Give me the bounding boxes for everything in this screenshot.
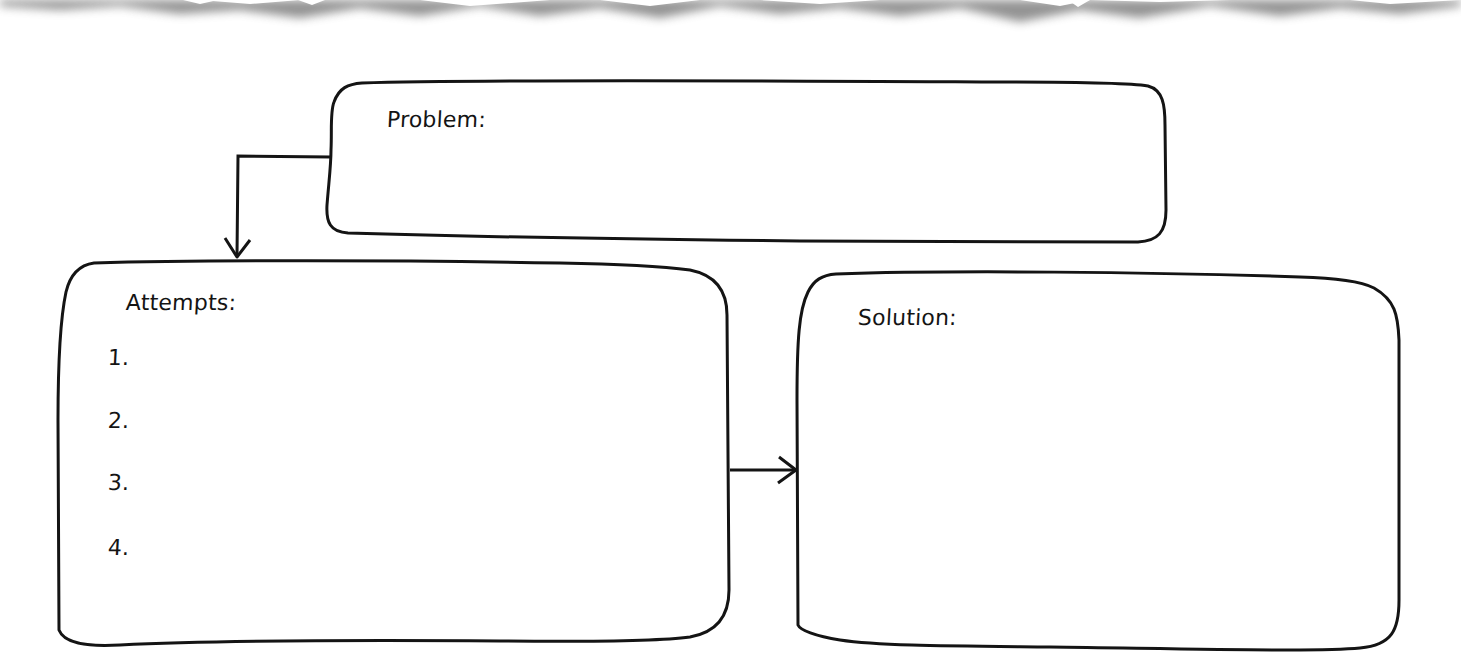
problem-box[interactable] — [328, 80, 1166, 243]
worksheet-canvas: Problem: Attempts: 1. 2. 3. 4. Solution: — [0, 0, 1461, 656]
problem-label: Problem: — [386, 107, 486, 132]
solution-label: Solution: — [857, 305, 957, 330]
arrow-down-icon — [225, 156, 331, 257]
attempt-item-3: 3. — [107, 470, 130, 495]
attempts-box[interactable] — [58, 262, 729, 647]
attempt-item-2: 2. — [107, 408, 130, 433]
attempt-item-1: 1. — [107, 345, 130, 370]
torn-paper-edge — [0, 0, 1461, 22]
attempts-label: Attempts: — [125, 290, 236, 315]
attempt-item-4: 4. — [107, 535, 130, 560]
arrow-right-icon — [730, 457, 796, 483]
